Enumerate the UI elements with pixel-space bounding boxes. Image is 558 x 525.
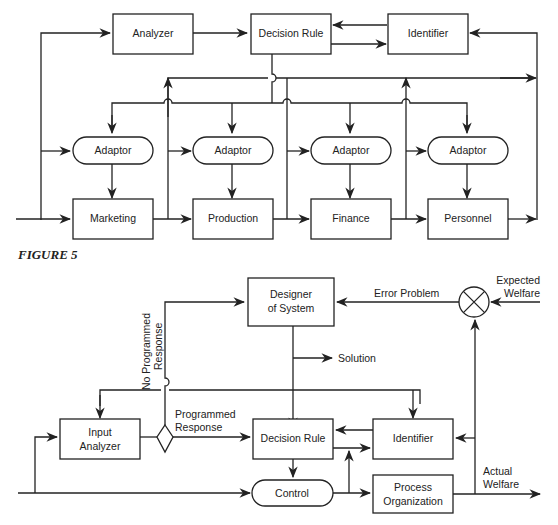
upper-bus	[168, 78, 534, 117]
adaptor-3-label: Adaptor	[333, 144, 370, 156]
decision-diamond	[157, 425, 173, 452]
process-label-1: Process	[394, 481, 432, 493]
expected-label-1: Expected	[496, 274, 540, 286]
adaptor-1-label: Adaptor	[95, 144, 132, 156]
diagram-canvas: Analyzer Decision Rule Identifier Adapto…	[0, 0, 558, 525]
error-problem-label: Error Problem	[374, 287, 440, 299]
figure-bottom: Designer of System Expected Welfare Erro…	[18, 274, 540, 513]
adaptor-2-label: Adaptor	[215, 144, 252, 156]
production-label: Production	[208, 212, 258, 224]
no-programmed-label-1: No Programmed	[140, 313, 152, 390]
programmed-label-1: Programmed	[175, 408, 236, 420]
arrow-to-identifier	[470, 33, 537, 220]
finance-label: Finance	[332, 212, 370, 224]
arrow-no-programmed-response	[165, 302, 244, 425]
designer-label-1: Designer	[270, 288, 313, 300]
process-label-2: Organization	[383, 495, 443, 507]
solution-label: Solution	[338, 352, 376, 364]
decision-rule-label: Decision Rule	[259, 27, 324, 39]
expected-label-2: Welfare	[504, 287, 540, 299]
decision-output-line	[272, 54, 276, 103]
lower-bus	[112, 99, 467, 130]
input-analyzer-box	[60, 419, 140, 459]
arrow-to-analyzer	[41, 33, 110, 220]
actual-label-2: Welfare	[483, 478, 519, 490]
marketing-label: Marketing	[90, 212, 136, 224]
decision-rule-label: Decision Rule	[261, 432, 326, 444]
actual-label-1: Actual	[483, 465, 512, 477]
personnel-label: Personnel	[444, 212, 491, 224]
input-analyzer-label-1: Input	[88, 426, 111, 438]
identifier-label: Identifier	[393, 432, 434, 444]
designer-label-2: of System	[268, 302, 315, 314]
programmed-label-2: Response	[175, 421, 222, 433]
analyzer-label: Analyzer	[133, 27, 174, 39]
identifier-label: Identifier	[408, 27, 449, 39]
broadcast-line	[100, 390, 420, 406]
control-label: Control	[275, 487, 309, 499]
figure-caption: FIGURE 5	[17, 247, 78, 262]
arrow-input-to-analyzer	[35, 437, 57, 493]
adaptor-4-label: Adaptor	[450, 144, 487, 156]
input-analyzer-label-2: Analyzer	[80, 440, 121, 452]
figure-top: Analyzer Decision Rule Identifier Adapto…	[16, 14, 537, 239]
no-programmed-label-2: Response	[152, 323, 164, 370]
